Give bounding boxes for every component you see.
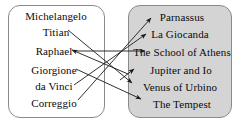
diagram-canvas: MichelangeloTitianRaphaelGiorgioneda Vin… <box>0 0 237 123</box>
artworks-list: ParnassusLa GiocandaThe School of Athens… <box>0 0 237 123</box>
artwork-item-2[interactable]: The School of Athens <box>133 47 231 58</box>
artwork-item-1[interactable]: La Giocanda <box>151 29 209 40</box>
artwork-item-0[interactable]: Parnassus <box>160 12 204 23</box>
artwork-item-5[interactable]: The Tempest <box>153 99 211 110</box>
artwork-item-3[interactable]: Jupiter and Io <box>150 65 212 76</box>
artwork-item-4[interactable]: Venus of Urbino <box>143 82 217 93</box>
